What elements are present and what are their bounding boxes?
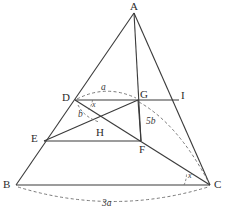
vertex-label-F: F bbox=[139, 144, 145, 155]
measure-label-5b: 5b bbox=[146, 117, 156, 127]
segment-AB bbox=[16, 13, 134, 185]
measure-label-b: b bbox=[78, 110, 83, 120]
vertex-label-H: H bbox=[96, 127, 104, 138]
vertex-label-B: B bbox=[3, 179, 10, 190]
angle-label-x-at-D: x bbox=[92, 101, 96, 109]
vertex-label-C: C bbox=[214, 179, 221, 190]
vertex-label-G: G bbox=[140, 89, 148, 100]
vertex-label-I: I bbox=[181, 90, 185, 101]
angle-arc-x-at-C bbox=[184, 174, 187, 186]
measure-label-3a: 3a bbox=[102, 199, 112, 209]
geometry-canvas bbox=[0, 0, 229, 219]
arc-a-D-G bbox=[77, 91, 136, 99]
vertex-label-D: D bbox=[62, 92, 70, 103]
vertex-label-A: A bbox=[130, 1, 138, 12]
geometry-figure: A B C D E F G H I a 5b 3a b x x bbox=[0, 0, 229, 219]
measure-label-a: a bbox=[101, 83, 106, 93]
vertex-label-E: E bbox=[31, 133, 38, 144]
angle-marks bbox=[89, 100, 187, 185]
arc-5b-G-C bbox=[139, 102, 209, 183]
arc-3a-B-C bbox=[18, 187, 208, 202]
angle-label-x-at-C: x bbox=[188, 172, 192, 180]
